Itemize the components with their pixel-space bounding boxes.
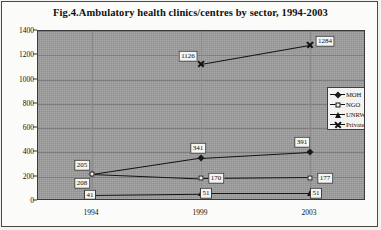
series-ngo-segment: [92, 174, 201, 180]
data-label-unrwa-1999: 51: [200, 188, 212, 199]
data-label-private-2003: 1284: [316, 36, 335, 47]
x-tick-label: 2003: [302, 208, 317, 217]
legend-item-private[interactable]: Private: [330, 120, 365, 130]
legend-label: NGO: [346, 101, 360, 108]
y-tick-label: 1000: [2, 74, 34, 83]
legend-key-unrwa-triangle-icon: [330, 110, 345, 119]
data-label-ngo-2003: 177: [317, 173, 333, 184]
series-private-segment: [201, 45, 310, 65]
data-label-moh-2003: 391: [294, 137, 310, 148]
data-label-unrwa-2003: 51: [310, 188, 322, 199]
series-unrwa-segment: [201, 193, 310, 194]
series-moh-segment: [201, 152, 310, 159]
y-tick-label: 800: [2, 98, 34, 107]
legend-label: Private: [346, 121, 365, 128]
legend-key-moh-diamond-icon: [330, 90, 345, 99]
series-moh-marker: [197, 154, 204, 161]
axis-baseline: [38, 200, 364, 201]
chart-title: Fig.4.Ambulatory health clinics/centres …: [0, 7, 381, 18]
y-axis: 1400 1200 1000 800 600 400 200 0: [0, 30, 34, 200]
legend-key-ngo-square-icon: [330, 100, 345, 109]
series-private-marker: [306, 41, 314, 49]
legend-label: MOH: [346, 91, 361, 98]
legend-item-ngo[interactable]: NGO: [330, 100, 365, 110]
legend-item-unrwa[interactable]: UNRWA: [330, 110, 365, 120]
series-ngo-marker: [199, 176, 204, 181]
series-moh-marker: [306, 148, 313, 155]
plot-area: 1126 1284 205 341 391 208 170 177 41 51 …: [37, 30, 365, 200]
data-label-moh-1994: 205: [74, 160, 90, 171]
x-axis: 1994 1999 2003: [37, 202, 365, 224]
y-tick-label: 200: [2, 171, 34, 180]
y-tick-label: 0: [2, 196, 34, 205]
legend-label: UNRWA: [346, 111, 365, 118]
y-tick-label: 400: [2, 147, 34, 156]
x-tick-label: 1994: [84, 208, 99, 217]
series-layer: 1126 1284 205 341 391 208 170 177 41 51 …: [38, 31, 364, 199]
y-tick-label: 1200: [2, 50, 34, 59]
legend: MOH NGO UNRWA Private: [327, 87, 365, 130]
data-label-moh-1999: 341: [190, 143, 206, 154]
data-label-ngo-1999: 170: [208, 173, 224, 184]
x-tick-label: 1999: [193, 208, 208, 217]
y-tick-label: 600: [2, 123, 34, 132]
data-label-ngo-1994: 208: [74, 178, 90, 189]
y-tick-label: 1400: [2, 26, 34, 35]
series-moh-segment: [92, 158, 200, 175]
series-private-marker: [197, 60, 205, 68]
legend-key-private-cross-icon: [330, 120, 345, 129]
figure-container: Fig.4.Ambulatory health clinics/centres …: [0, 0, 381, 230]
series-ngo-marker: [90, 171, 95, 176]
legend-item-moh[interactable]: MOH: [330, 90, 365, 100]
data-label-unrwa-1994: 41: [84, 189, 96, 200]
series-ngo-marker: [308, 175, 313, 180]
series-unrwa-segment: [92, 193, 201, 195]
data-label-private-1999: 1126: [179, 51, 198, 62]
